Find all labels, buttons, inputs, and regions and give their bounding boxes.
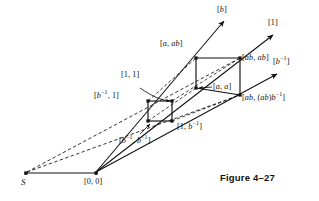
leader-binv-binv (140, 124, 150, 134)
small-square-face (148, 101, 172, 121)
vertex-label-binv-one: [b−1, 1] (94, 92, 119, 100)
figure-container: [b] [1] [b−1] [a, ab] [ab, ab] [1, 1] [a… (0, 0, 319, 201)
vertex-a-a (194, 86, 197, 89)
vertex-label-binv-binv: [b−1, b−1] (119, 137, 151, 145)
vertex-label-a-ab: [a, ab] (160, 40, 183, 48)
vertex-label-ab-ab: [ab, ab] (242, 54, 269, 62)
vertex-binv-1 (146, 99, 149, 102)
ray-label-one: [1] (268, 19, 278, 27)
vertex-a-ab (194, 56, 197, 59)
vertex-label-ab-ab-binv: [ab, (ab)b−1] (242, 94, 285, 102)
vertex-one-one (170, 99, 173, 102)
figure-caption: Figure 4–27 (220, 172, 275, 183)
vertex-binv-binv (146, 119, 149, 122)
vertex-one-binv (170, 119, 173, 122)
ray-label-b: [b] (217, 6, 227, 14)
vertex-origin (94, 171, 97, 174)
vertex-source (24, 171, 27, 174)
origin-label: [0, 0] (84, 178, 102, 186)
vertex-label-one-one: [1, 1] (121, 71, 139, 79)
vertex-label-a-a: [a, a] (213, 83, 231, 91)
ray-label-b-inverse: [b−1] (273, 58, 289, 66)
vertex-label-one-binv: [1, b−1] (177, 123, 202, 131)
source-label: S (21, 177, 26, 187)
leader-a-a (199, 87, 212, 88)
